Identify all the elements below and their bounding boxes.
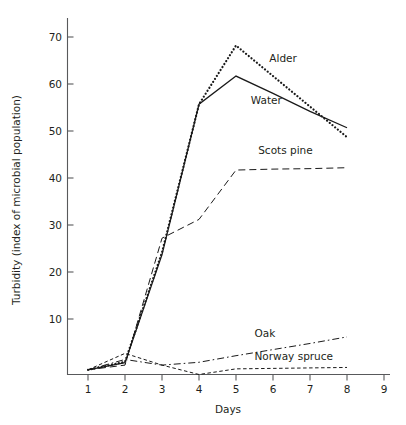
x-axis-ticks [88,375,384,381]
y-axis-ticks [68,37,74,319]
y-tick-label-60: 60 [49,78,62,90]
series-label-water: Water [251,94,283,106]
chart-figure: 70 60 50 40 30 20 10 1 2 3 4 5 6 [0,0,406,425]
x-tick-label-2: 2 [122,383,129,395]
series-line-alder [88,46,347,370]
y-tick-label-20: 20 [49,266,62,278]
y-tick-label-40: 40 [49,172,62,184]
series-line-water [88,76,347,370]
series-layer [88,46,347,375]
series-label-layer: AlderWaterScots pineOakNorway spruce [251,52,333,362]
turbidity-line-chart: 70 60 50 40 30 20 10 1 2 3 4 5 6 [0,0,406,425]
series-label-alder: Alder [269,52,297,64]
y-tick-label-50: 50 [49,125,62,137]
x-axis-tick-labels: 1 2 3 4 5 6 7 8 9 [85,383,388,395]
x-axis-title: Days [215,403,241,415]
y-tick-label-10: 10 [49,313,62,325]
y-tick-label-70: 70 [49,31,62,43]
y-axis-title: Turbidity (index of microbial population… [10,95,22,306]
y-tick-label-30: 30 [49,219,62,231]
x-tick-label-9: 9 [381,383,388,395]
x-tick-label-3: 3 [159,383,166,395]
series-label-norway-spruce: Norway spruce [255,350,334,362]
series-line-scots-pine [88,168,347,370]
y-axis-tick-labels: 70 60 50 40 30 20 10 [49,31,62,325]
x-tick-label-6: 6 [270,383,277,395]
x-tick-label-7: 7 [307,383,314,395]
series-label-scots-pine: Scots pine [258,144,312,156]
x-tick-label-5: 5 [233,383,240,395]
series-label-oak: Oak [255,327,277,339]
x-tick-label-8: 8 [344,383,351,395]
x-tick-label-1: 1 [85,383,92,395]
x-tick-label-4: 4 [196,383,203,395]
